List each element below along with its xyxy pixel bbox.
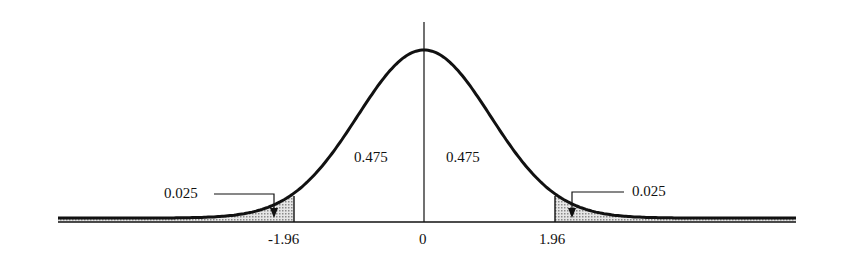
left-center-label: 0.475 bbox=[354, 150, 388, 165]
tick-label-pos: 1.96 bbox=[539, 232, 565, 247]
tick-label-zero: 0 bbox=[419, 232, 427, 247]
normal-distribution-figure: 0.025 0.025 0.475 0.475 -1.96 0 1.96 bbox=[0, 0, 843, 259]
right-tail-label: 0.025 bbox=[632, 184, 666, 199]
right-center-label: 0.475 bbox=[446, 150, 480, 165]
left-tail-label: 0.025 bbox=[164, 186, 198, 201]
tick-label-neg: -1.96 bbox=[268, 232, 299, 247]
chart-canvas bbox=[0, 0, 843, 259]
